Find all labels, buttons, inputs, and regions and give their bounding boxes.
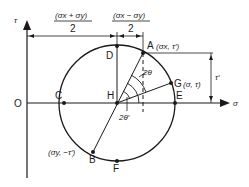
dim-right-numerator: (σx − σy) [113,11,145,20]
sigma-axis-arrow-icon [220,99,230,107]
dim-left-numerator: (σx + σy) [55,11,87,20]
tau-prime-label: τ′ [215,73,220,82]
origin-label: O [14,98,22,109]
tau-axis-arrow-icon [23,20,31,30]
angle-2theta-prime-arc [127,83,139,103]
point-a-coord: (σx, τ′) [156,42,179,51]
point-h-label: H [107,90,114,101]
angle-2theta-arc [131,75,146,92]
point-a-label: A [147,40,154,51]
dim-right-denominator: 2 [128,23,134,34]
mohr-circle-diagram: τ σ O (σx + σy) 2 (σx − σy) 2 τ′ D A (σx… [0,0,249,187]
point-g-label: G [174,78,182,89]
sigma-axis-label: σ [233,99,239,108]
point-g-coord: (σ, τ) [183,80,201,89]
point-e-label: E [176,90,183,101]
point-c-label: C [55,90,62,101]
angle-2theta-prime-label: 2θ′ [118,113,130,122]
radius-hg [117,83,171,103]
tau-axis-label: τ [14,16,18,25]
point-b-coord: (σy, −τ′) [48,148,76,157]
point-b-label: B [89,154,96,165]
point-f-label: F [113,163,119,174]
angle-2theta-label: 2θ [142,68,152,77]
dim-left-denominator: 2 [70,23,76,34]
point-d-label: D [106,50,113,61]
